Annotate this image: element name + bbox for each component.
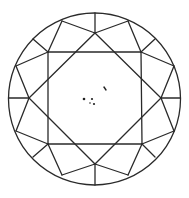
diamond-plot bbox=[0, 0, 189, 198]
inclusions bbox=[83, 87, 106, 105]
upper-girdle-facets bbox=[9, 13, 181, 185]
inclusion-crystal bbox=[93, 103, 95, 105]
inclusion-feather bbox=[104, 87, 106, 90]
inclusion-crystal bbox=[91, 98, 93, 100]
inclusion-crystal bbox=[83, 98, 86, 101]
inclusion-crystal bbox=[89, 102, 91, 104]
